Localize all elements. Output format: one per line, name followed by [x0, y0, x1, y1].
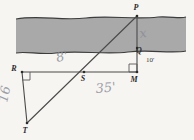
vertex-dot-S: [83, 71, 86, 74]
vertex-dot-T: [26, 122, 29, 125]
river-fill-area: [16, 17, 186, 54]
figure-canvas: P Q R S M T 10' x 8' 35' 16: [0, 0, 194, 140]
right-angle-at-M-inner: [129, 64, 137, 72]
point-label-S: S: [81, 74, 86, 83]
point-label-R: R: [10, 64, 17, 73]
geometry-figure: P Q R S M T 10' x 8' 35' 16: [0, 0, 194, 140]
dimension-label-QM: 10': [146, 56, 154, 64]
point-label-Q: Q: [136, 46, 142, 55]
river-band: [16, 17, 186, 54]
point-label-T: T: [23, 126, 29, 135]
vertex-dot-P: [136, 15, 139, 18]
vertex-dot-R: [21, 71, 24, 74]
dimension-label-SM: 35': [95, 79, 116, 96]
right-angle-at-M: [129, 64, 137, 72]
point-label-P: P: [134, 3, 139, 12]
dimension-label-RT: 16: [0, 84, 13, 103]
point-label-M: M: [129, 75, 138, 84]
vertex-dot-M: [136, 71, 139, 74]
printed-dimensions: 10': [146, 56, 154, 64]
